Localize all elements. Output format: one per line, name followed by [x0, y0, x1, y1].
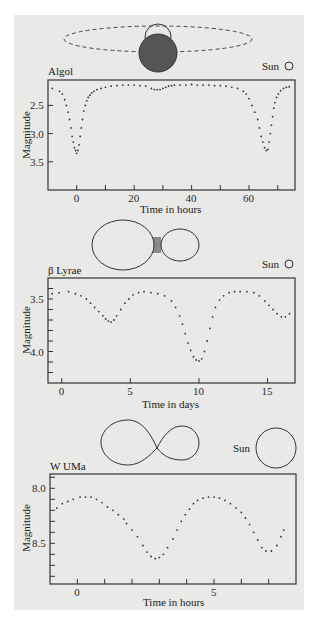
data-point — [182, 323, 184, 325]
data-point — [68, 291, 70, 293]
data-point — [219, 85, 221, 87]
data-point — [198, 360, 200, 362]
data-point — [224, 500, 226, 502]
data-point — [208, 496, 210, 498]
data-point — [180, 520, 182, 522]
data-point — [208, 84, 210, 86]
data-point — [283, 88, 285, 90]
data-point — [213, 496, 215, 498]
data-point — [79, 496, 81, 498]
w-uma-title: W UMa — [50, 460, 86, 472]
data-point — [164, 295, 166, 297]
data-point — [117, 514, 119, 516]
data-point — [98, 311, 100, 313]
beta-lyrae-secondary — [161, 229, 199, 261]
data-point — [162, 88, 164, 90]
data-point — [223, 295, 225, 297]
data-point — [264, 147, 266, 149]
data-point — [225, 85, 227, 87]
sun-icon — [285, 260, 293, 268]
x-tick-label: 60 — [243, 192, 254, 204]
beta-lyrae-primary — [92, 220, 154, 270]
data-point — [116, 85, 118, 87]
data-point — [284, 316, 286, 318]
data-point — [138, 292, 140, 294]
data-point — [271, 550, 273, 552]
data-point — [61, 93, 63, 95]
data-point — [168, 85, 170, 87]
data-point — [167, 547, 169, 549]
y-tick-label: 8.0 — [32, 482, 46, 494]
data-point — [184, 514, 186, 516]
data-point — [179, 315, 181, 317]
data-point — [277, 93, 279, 95]
data-point — [96, 498, 98, 500]
data-point — [261, 547, 263, 549]
data-point — [159, 89, 161, 91]
data-point — [171, 85, 173, 87]
y-tick-label: 4.0 — [30, 346, 44, 358]
data-point — [86, 100, 88, 102]
data-point — [105, 86, 107, 88]
w-uma-diagram — [101, 420, 199, 465]
data-point — [51, 293, 53, 295]
data-point — [176, 529, 178, 531]
y-tick-label: 2.5 — [30, 99, 44, 111]
data-point — [245, 93, 247, 95]
data-point — [265, 150, 267, 152]
data-point — [187, 342, 189, 344]
data-point — [201, 358, 203, 360]
sun-icon — [256, 428, 296, 468]
sun-label: Sun — [262, 60, 279, 72]
w-uma-plot — [50, 474, 296, 584]
data-point — [237, 88, 239, 90]
data-point — [58, 292, 60, 294]
data-point — [228, 292, 230, 294]
y-tick-label: 3.0 — [30, 128, 44, 140]
data-point — [189, 508, 191, 510]
x-tick-label: 0 — [74, 192, 80, 204]
sun-icon — [285, 62, 293, 70]
data-point — [71, 136, 73, 138]
data-point — [90, 302, 92, 304]
data-point — [268, 304, 270, 306]
data-point — [94, 307, 96, 309]
data-point — [80, 295, 82, 297]
data-point — [289, 313, 291, 315]
data-point — [82, 119, 84, 121]
data-point — [202, 497, 204, 499]
data-point — [219, 299, 221, 301]
data-point — [272, 309, 274, 311]
data-point — [154, 558, 156, 560]
data-point — [288, 86, 290, 88]
x-tick-label: 15 — [262, 385, 273, 397]
data-point — [253, 292, 255, 294]
data-point — [91, 92, 93, 94]
data-point — [89, 94, 91, 96]
data-point — [128, 298, 130, 300]
data-point — [87, 97, 89, 99]
data-point — [142, 545, 144, 547]
sun-label: Sun — [262, 258, 279, 270]
y-tick-label: 8.5 — [32, 537, 46, 549]
data-point — [143, 291, 145, 293]
x-tick-label: 40 — [186, 192, 197, 204]
data-point — [242, 90, 244, 92]
data-point — [276, 545, 278, 547]
data-point — [131, 529, 133, 531]
data-point — [156, 89, 158, 91]
beta-lyrae-diagram — [92, 220, 199, 270]
data-point — [276, 313, 278, 315]
data-point — [150, 292, 152, 294]
data-point — [146, 551, 148, 553]
data-point — [219, 497, 221, 499]
data-point — [269, 133, 271, 135]
data-point — [120, 309, 122, 311]
plot-frame — [48, 278, 295, 383]
data-point — [179, 84, 181, 86]
data-point — [258, 127, 260, 129]
data-point — [239, 291, 241, 293]
x-tick-label: 10 — [193, 385, 204, 397]
data-point — [267, 148, 269, 150]
data-point — [260, 136, 262, 138]
